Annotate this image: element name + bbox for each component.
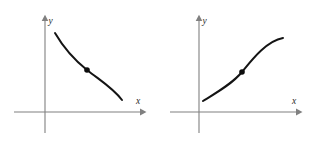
x-axis-label-right: x [291,96,297,106]
chart-panel-right: x y [156,0,313,149]
y-axis-arrowhead-right [196,15,203,21]
y-axis-label-left: y [48,16,54,26]
inflection-point-dot-left [84,67,90,73]
x-axis-arrowhead-left [140,109,147,116]
x-axis-label-left: x [135,96,141,106]
chart-svg-left: x y [0,0,157,149]
inflection-point-dot-right [239,69,245,75]
figure-container: x y x y [0,0,313,149]
curve-decreasing [55,33,122,100]
chart-panel-left: x y [0,0,157,149]
x-axis-arrowhead-right [296,109,303,116]
y-axis-label-right: y [202,16,208,26]
y-axis-arrowhead-left [42,15,49,21]
chart-svg-right: x y [156,0,313,149]
